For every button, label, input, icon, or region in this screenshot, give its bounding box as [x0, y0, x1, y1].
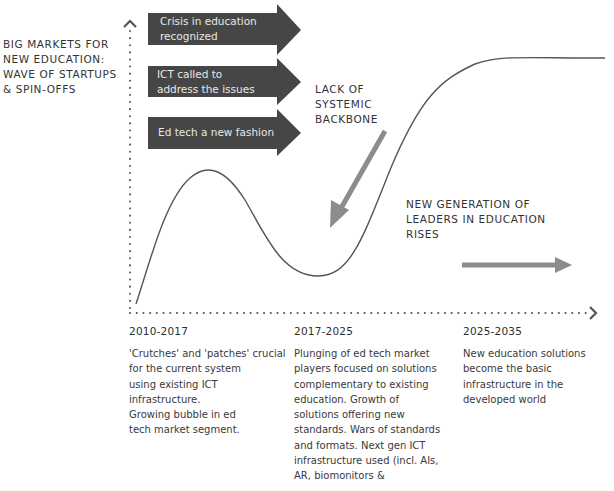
period-description: Plunging of ed tech market players focus… — [294, 346, 469, 484]
y-axis-chevron-up-icon — [124, 21, 136, 27]
period-column-2017-2025: 2017-2025 Plunging of ed tech market pla… — [294, 325, 469, 484]
down-left-arrow-icon — [330, 131, 385, 228]
dark-arrow-label-edtech: Ed tech a new fashion — [158, 125, 274, 140]
period-description: 'Crutches' and 'patches' crucial for the… — [129, 346, 304, 438]
period-range: 2010-2017 — [129, 325, 304, 337]
period-column-2010-2017: 2010-2017 'Crutches' and 'patches' cruci… — [129, 325, 304, 438]
y-axis-label: BIG MARKETS FOR NEW EDUCATION: WAVE OF S… — [3, 37, 123, 97]
period-description: New education solutions become the basic… — [463, 346, 613, 407]
dark-arrow-label-crisis: Crisis in education recognized — [160, 14, 257, 44]
dark-arrow-label-ict: ICT called to address the issues — [157, 67, 255, 97]
period-range: 2025-2035 — [463, 325, 613, 337]
annotation-new-generation: NEW GENERATION OF LEADERS IN EDUCATION R… — [406, 197, 546, 242]
right-arrow-icon — [462, 257, 572, 273]
annotation-lack-of-backbone: LACK OF SYSTEMIC BACKBONE — [315, 82, 378, 127]
period-column-2025-2035: 2025-2035 New education solutions become… — [463, 325, 613, 407]
x-axis-chevron-right-icon — [590, 307, 596, 319]
period-range: 2017-2025 — [294, 325, 469, 337]
